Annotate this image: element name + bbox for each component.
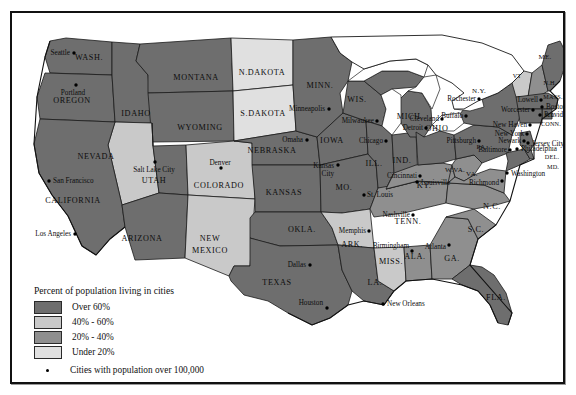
map-page: WASH.OREGONIDAHOMONTANAWYOMINGNEVADACALI…	[0, 0, 576, 395]
state-label: N.DAKOTA	[239, 68, 286, 77]
city-dot	[464, 114, 467, 117]
state-label: KANSAS	[266, 188, 302, 197]
city-label: New Haven	[493, 121, 528, 129]
city-dot	[447, 243, 450, 246]
city-dot	[410, 249, 413, 252]
map-frame: WASH.OREGONIDAHOMONTANAWYOMINGNEVADACALI…	[10, 11, 565, 384]
state-label: WASH.	[75, 53, 103, 62]
city-label: St. Louis	[367, 191, 393, 199]
city-dot	[528, 123, 531, 126]
state-label: VA.	[466, 170, 478, 178]
state-label: MO.	[335, 183, 352, 192]
city-dot	[153, 160, 156, 163]
city-dot	[477, 139, 480, 142]
city-dot	[73, 232, 76, 235]
state-label: VT	[513, 72, 522, 79]
city-dot	[477, 97, 480, 100]
city-label: Providence	[544, 111, 563, 119]
city-label: Denver	[209, 159, 231, 167]
city-dot	[538, 113, 541, 116]
city-label: Kansas	[313, 162, 334, 170]
state-label: MINN.	[307, 81, 334, 90]
legend-cities-label: Cities with population over 100,000	[70, 365, 204, 375]
city-label: San Francisco	[53, 177, 94, 185]
state-label: W.VA.	[445, 166, 465, 174]
city-dot	[72, 51, 75, 54]
city-dot	[381, 302, 384, 305]
state-label: S.DAKOTA	[240, 109, 285, 118]
city-label: Jersey City	[532, 140, 563, 148]
legend-item: 40% - 60%	[34, 315, 204, 329]
state-label: GA.	[444, 254, 460, 263]
legend-swatch	[34, 316, 62, 329]
state-label: N.Y.	[472, 87, 486, 95]
city-dot	[308, 263, 311, 266]
city-dot	[539, 98, 542, 101]
city-label: Milwaukee	[342, 117, 374, 125]
state-label: ARK.	[341, 240, 363, 249]
city-label: City	[322, 170, 335, 178]
city-label: Los Angeles	[35, 230, 71, 238]
city-dot	[305, 138, 308, 141]
city-label: Omaha	[282, 136, 304, 144]
state-label: OKLA.	[288, 225, 316, 234]
legend-swatch	[34, 331, 62, 344]
city-dot	[424, 126, 427, 129]
legend-item: Over 60%	[34, 300, 204, 314]
city-dot	[415, 180, 418, 183]
city-label: Buffalo	[441, 112, 463, 120]
legend-item: Under 20%	[34, 345, 204, 359]
city-dot	[515, 147, 518, 150]
city-dot	[411, 213, 414, 216]
city-dot	[505, 171, 508, 174]
legend-item-label: 40% - 60%	[72, 317, 114, 327]
city-dot	[525, 132, 528, 135]
state-label: CALIFORNIA	[45, 196, 101, 205]
city-label: Birmingham	[373, 242, 410, 250]
city-label: Detroit	[403, 124, 423, 132]
city-dot	[375, 119, 378, 122]
city-label: Minneapolis	[289, 105, 325, 113]
state-shape-colorado	[186, 141, 255, 199]
state-label: ALA.	[404, 252, 425, 261]
city-label: Boston	[546, 103, 563, 111]
city-label: Memphis	[339, 227, 366, 235]
legend-swatch	[34, 301, 62, 314]
city-label: Atlanta	[425, 243, 447, 251]
city-dot	[325, 306, 328, 309]
state-label: S.C.	[468, 225, 485, 234]
city-label: Worcester	[501, 106, 531, 114]
city-label: Newark	[498, 137, 521, 145]
city-dot	[362, 193, 365, 196]
city-dot	[531, 108, 534, 111]
state-label: IDAHO	[121, 109, 150, 118]
city-label: Rochester	[447, 95, 476, 103]
city-label: Chicago	[359, 137, 383, 145]
city-label: New Orleans	[387, 300, 425, 308]
state-shape-arizona	[122, 193, 188, 260]
state-label: NEW	[200, 234, 220, 243]
state-label: OREGON	[53, 96, 91, 105]
legend-item-label: Over 60%	[72, 302, 110, 312]
state-label: WYOMING	[177, 123, 223, 132]
city-label: Dallas	[288, 261, 307, 269]
city-dot	[508, 148, 511, 151]
state-label: TEXAS	[262, 278, 291, 287]
state-shape-north-dakota	[231, 38, 293, 91]
city-dot	[47, 179, 50, 182]
state-label: MD.	[547, 163, 559, 170]
city-dot	[384, 139, 387, 142]
city-label: Nashville	[382, 211, 410, 219]
state-label: CONN.	[541, 120, 561, 127]
legend-title: Percent of population living in cities	[34, 285, 204, 296]
state-label: LA.	[368, 278, 383, 287]
state-label: ARIZONA	[121, 234, 162, 243]
state-label: MISS.	[379, 257, 403, 266]
legend-swatch	[34, 346, 62, 359]
state-label: N.H.	[544, 79, 557, 86]
city-label: Cleveland	[410, 115, 440, 123]
state-label: DEL.	[545, 153, 560, 160]
city-label: Cincinnati	[387, 172, 417, 180]
city-label: Portland	[61, 89, 86, 97]
state-label: COLORADO	[194, 181, 244, 190]
